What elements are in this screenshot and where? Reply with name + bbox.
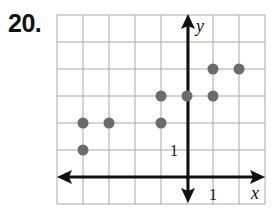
data-point (182, 91, 193, 102)
x-axis-label: x (250, 183, 259, 203)
data-point (156, 118, 167, 129)
y-tick-label: 1 (170, 142, 178, 159)
y-axis-label: y (194, 16, 204, 36)
data-point (156, 91, 167, 102)
data-point (234, 64, 245, 75)
x-tick-label: 1 (209, 186, 217, 203)
data-point (208, 91, 219, 102)
data-point (104, 118, 115, 129)
data-point (208, 64, 219, 75)
data-point (78, 118, 89, 129)
scatter-plot: y x 1 1 (0, 0, 273, 208)
data-point (78, 145, 89, 156)
